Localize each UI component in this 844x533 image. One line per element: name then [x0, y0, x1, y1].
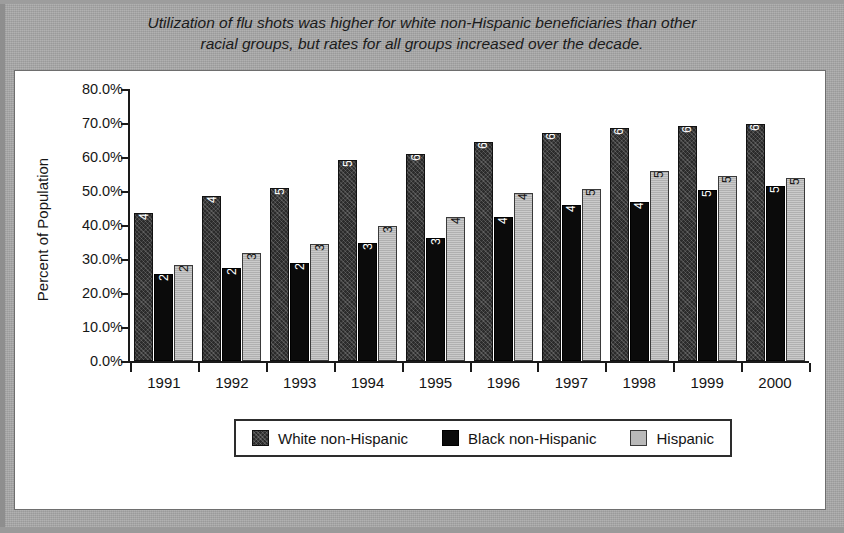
x-axis-tick-label: 1994 [334, 374, 402, 391]
bar-value-label: 28.1% [177, 265, 191, 272]
x-axis-tick-label: 1991 [130, 374, 198, 391]
bar[interactable]: 42.5% [494, 217, 513, 362]
x-axis-tick-mark [402, 363, 404, 372]
legend-item[interactable]: Hispanic [630, 430, 714, 447]
y-axis-tick-label: 10.0% [45, 319, 123, 335]
bar-value-label: 34.3% [313, 244, 327, 251]
y-axis-tick-label: 50.0% [45, 183, 123, 199]
chart-panel: Percent of Population 80.0%70.0%60.0%50.… [14, 70, 826, 510]
bar-value-label: 36.3% [429, 238, 443, 245]
bar-group: 68.6%46.9%56.0% [605, 89, 673, 361]
legend-swatch-icon [630, 430, 647, 446]
bar-group: 69.8%51.5%53.8% [741, 89, 809, 361]
bar[interactable]: 28.1% [174, 265, 193, 361]
bar[interactable]: 48.6% [202, 196, 221, 361]
chart-title-line-1: Utilization of flu shots was higher for … [60, 12, 784, 33]
bar[interactable]: 50.2% [698, 190, 717, 361]
bar-value-label: 46.0% [564, 205, 578, 212]
y-axis-tick-label: 80.0% [45, 81, 123, 97]
chart-title-line-2: racial groups, but rates for all groups … [60, 33, 784, 54]
y-axis-tick-mark [121, 293, 129, 295]
bar[interactable]: 50.5% [582, 189, 601, 361]
bar-value-label: 34.8% [361, 243, 375, 250]
bar-value-label: 46.9% [632, 202, 646, 209]
bar[interactable]: 34.8% [358, 243, 377, 361]
plot-area: Percent of Population 80.0%70.0%60.0%50.… [15, 71, 827, 511]
bar-value-label: 53.8% [788, 178, 802, 185]
bar[interactable]: 51.0% [270, 188, 289, 361]
bar-group: 51.0%28.9%34.3% [266, 89, 334, 361]
bars-layer: 43.4%25.5%28.1%48.6%27.5%31.7%51.0%28.9%… [130, 89, 809, 361]
bar-value-label: 48.6% [205, 196, 219, 203]
y-axis-tick-label: 60.0% [45, 149, 123, 165]
bar-value-label: 69.0% [680, 126, 694, 133]
bar-value-label: 54.5% [720, 176, 734, 183]
legend-label: Hispanic [656, 430, 714, 447]
bar-value-label: 42.3% [449, 217, 463, 224]
legend-label: White non-Hispanic [278, 430, 408, 447]
scan-edge-bottom [0, 527, 844, 533]
bar[interactable]: 54.5% [718, 176, 737, 361]
bar[interactable]: 51.5% [766, 186, 785, 361]
bar[interactable]: 39.6% [378, 226, 397, 361]
x-axis-line [128, 361, 809, 363]
y-axis-tick-mark [121, 259, 129, 261]
bar-value-label: 27.5% [225, 268, 239, 275]
y-axis-tick-mark [121, 123, 129, 125]
x-axis-tick-label: 1999 [673, 374, 741, 391]
x-axis-tick-label: 1993 [266, 374, 334, 391]
legend-item[interactable]: Black non-Hispanic [442, 430, 596, 447]
bar[interactable]: 31.7% [242, 253, 261, 361]
x-axis-tick-label: 1992 [198, 374, 266, 391]
bar[interactable]: 25.5% [154, 274, 173, 361]
x-axis-tick-mark [605, 363, 607, 372]
bar[interactable]: 69.8% [746, 124, 765, 361]
y-axis-tick-mark [121, 361, 129, 363]
x-axis-tick-mark [809, 363, 811, 372]
bar-group: 43.4%25.5%28.1% [130, 89, 198, 361]
y-axis-tick-mark [121, 89, 129, 91]
bar[interactable]: 69.0% [678, 126, 697, 361]
bar[interactable]: 60.8% [406, 154, 425, 361]
scanned-page: Utilization of flu shots was higher for … [0, 0, 844, 533]
bar[interactable]: 42.3% [446, 217, 465, 361]
y-axis-tick-label: 70.0% [45, 115, 123, 131]
y-axis-tick-labels: 80.0%70.0%60.0%50.0%40.0%30.0%20.0%10.0%… [45, 89, 123, 361]
bar-group: 59.0%34.8%39.6% [334, 89, 402, 361]
scan-edge-top [0, 0, 844, 4]
bar-value-label: 69.8% [748, 124, 762, 131]
bar-value-label: 64.4% [476, 142, 490, 149]
bar[interactable]: 53.8% [786, 178, 805, 361]
legend-swatch-icon [442, 430, 459, 446]
x-axis-tick-mark [537, 363, 539, 372]
y-axis-tick-mark [121, 157, 129, 159]
bar-group: 69.0%50.2%54.5% [673, 89, 741, 361]
bar[interactable]: 43.4% [134, 213, 153, 361]
bar[interactable]: 27.5% [222, 268, 241, 362]
bar-value-label: 56.0% [652, 171, 666, 178]
bar-value-label: 50.2% [700, 190, 714, 197]
x-axis-tick-label: 1997 [537, 374, 605, 391]
legend-item[interactable]: White non-Hispanic [252, 430, 408, 447]
scan-edge-left [0, 0, 5, 533]
chart-legend: White non-HispanicBlack non-HispanicHisp… [234, 419, 732, 457]
bar[interactable]: 49.4% [514, 193, 533, 361]
bar-value-label: 60.8% [409, 154, 423, 161]
y-axis-tick-label: 40.0% [45, 217, 123, 233]
bar[interactable]: 64.4% [474, 142, 493, 361]
x-axis-tick-mark [470, 363, 472, 372]
bar[interactable]: 67.0% [542, 133, 561, 361]
bar[interactable]: 36.3% [426, 238, 445, 361]
y-axis-tick-mark [121, 191, 129, 193]
bar[interactable]: 68.6% [610, 128, 629, 361]
bar[interactable]: 46.0% [562, 205, 581, 361]
bar[interactable]: 59.0% [338, 160, 357, 361]
bar-group: 67.0%46.0%50.5% [537, 89, 605, 361]
x-axis-tick-mark [334, 363, 336, 372]
bar[interactable]: 28.9% [290, 263, 309, 361]
bar[interactable]: 56.0% [650, 171, 669, 361]
bar[interactable]: 46.9% [630, 202, 649, 361]
bar[interactable]: 34.3% [310, 244, 329, 361]
bar-value-label: 67.0% [544, 133, 558, 140]
x-axis-tick-label: 1996 [470, 374, 538, 391]
